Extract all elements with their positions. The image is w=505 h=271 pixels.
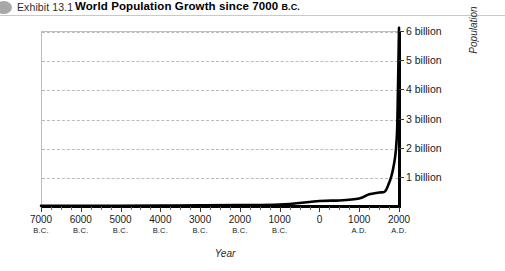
x-tick-major-8 bbox=[359, 207, 360, 212]
x-tick-minor bbox=[220, 207, 221, 210]
x-axis-label-value: 2000 bbox=[388, 214, 410, 225]
x-tick-minor bbox=[180, 207, 181, 210]
x-axis-label-9: 2000A.D. bbox=[376, 214, 422, 235]
y-axis-label-4-billion: 4 billion bbox=[406, 83, 442, 95]
x-tick-minor bbox=[349, 207, 350, 210]
x-tick-minor bbox=[91, 207, 92, 210]
x-axis-label-value: 3000 bbox=[189, 214, 211, 225]
exhibit-title-era: B.C. bbox=[282, 2, 300, 12]
y-tick-5 bbox=[399, 60, 404, 61]
population-curve bbox=[41, 31, 399, 206]
x-tick-major-3 bbox=[160, 207, 161, 212]
x-axis-label-value: 7000 bbox=[30, 214, 52, 225]
x-tick-major-4 bbox=[200, 207, 201, 212]
y-axis-label-5-billion: 5 billion bbox=[406, 54, 442, 66]
x-axis-label-value: 0 bbox=[317, 214, 323, 225]
exhibit-number-label: Exhibit 13.1 bbox=[17, 1, 73, 13]
x-tick-minor bbox=[250, 207, 251, 210]
x-axis-label-value: 4000 bbox=[149, 214, 171, 225]
x-tick-minor bbox=[339, 207, 340, 210]
x-axis-label-era: B.C. bbox=[257, 226, 303, 235]
x-axis-title: Year bbox=[195, 248, 255, 259]
x-axis-label-value: 1000 bbox=[348, 214, 370, 225]
x-tick-minor bbox=[71, 207, 72, 210]
x-tick-minor bbox=[150, 207, 151, 210]
x-tick-major-5 bbox=[240, 207, 241, 212]
x-tick-minor bbox=[140, 207, 141, 210]
x-tick-minor bbox=[300, 207, 301, 210]
exhibit-header: Exhibit 13.1 World Population Growth sin… bbox=[0, 0, 505, 16]
x-axis-label-value: 1000 bbox=[269, 214, 291, 225]
y-axis-line bbox=[398, 31, 401, 208]
y-tick-1 bbox=[399, 177, 404, 178]
x-tick-minor bbox=[389, 207, 390, 210]
x-tick-minor bbox=[230, 207, 231, 210]
x-tick-major-1 bbox=[81, 207, 82, 212]
y-tick-6 bbox=[399, 31, 404, 32]
circle-bullet-icon bbox=[0, 1, 12, 14]
x-tick-minor bbox=[190, 207, 191, 210]
y-tick-2 bbox=[399, 148, 404, 149]
x-tick-minor bbox=[290, 207, 291, 210]
y-tick-3 bbox=[399, 119, 404, 120]
y-axis-label-1-billion: 1 billion bbox=[406, 171, 442, 183]
x-tick-major-7 bbox=[319, 207, 320, 212]
x-tick-minor bbox=[61, 207, 62, 210]
y-axis-label-3-billion: 3 billion bbox=[406, 113, 442, 125]
y-axis-title: Population bbox=[468, 0, 479, 75]
y-tick-4 bbox=[399, 89, 404, 90]
x-tick-minor bbox=[101, 207, 102, 210]
x-axis-line bbox=[41, 205, 401, 208]
y-axis-label-2-billion: 2 billion bbox=[406, 142, 442, 154]
y-axis-label-6-billion: 6 billion bbox=[406, 25, 442, 37]
x-tick-minor bbox=[51, 207, 52, 210]
x-tick-minor bbox=[131, 207, 132, 210]
x-axis-label-era: A.D. bbox=[376, 226, 422, 235]
x-axis-label-value: 6000 bbox=[70, 214, 92, 225]
x-tick-minor bbox=[379, 207, 380, 210]
x-tick-major-2 bbox=[121, 207, 122, 212]
x-tick-minor bbox=[329, 207, 330, 210]
x-axis-label-value: 2000 bbox=[229, 214, 251, 225]
x-tick-minor bbox=[170, 207, 171, 210]
x-tick-major-9 bbox=[399, 207, 400, 212]
x-tick-major-0 bbox=[41, 207, 42, 212]
page-title: World Population Growth since 7000 B.C. bbox=[75, 0, 300, 12]
x-tick-major-6 bbox=[280, 207, 281, 212]
header-divider bbox=[0, 15, 505, 16]
x-axis-label-value: 5000 bbox=[109, 214, 131, 225]
x-tick-minor bbox=[111, 207, 112, 210]
x-tick-minor bbox=[210, 207, 211, 210]
x-tick-minor bbox=[310, 207, 311, 210]
x-tick-minor bbox=[260, 207, 261, 210]
exhibit-title-main: World Population Growth since 7000 bbox=[75, 0, 282, 12]
x-tick-minor bbox=[369, 207, 370, 210]
x-tick-minor bbox=[270, 207, 271, 210]
